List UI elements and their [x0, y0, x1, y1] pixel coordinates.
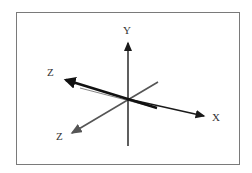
x-axis-label: X	[212, 111, 220, 123]
z-back-axis-label: Z	[47, 66, 54, 78]
z-front-axis-label: Z	[56, 130, 63, 142]
y-axis-label: Y	[123, 24, 131, 36]
z-back-axis	[66, 80, 157, 108]
axes-diagram: Y X Z Z	[0, 0, 252, 173]
